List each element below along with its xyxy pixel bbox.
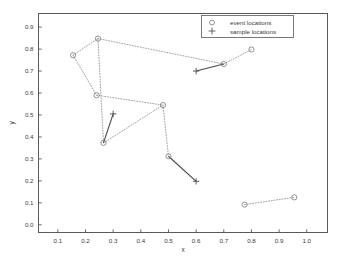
y-tick-label: 0.7 — [25, 67, 34, 74]
y-tick-label: 0.5 — [25, 111, 34, 118]
legend-label-sample-locations: sample locations — [230, 28, 276, 35]
y-tick-label: 0.2 — [25, 177, 34, 184]
x-tick-label: 0.1 — [54, 237, 63, 244]
y-tick-label: 0.9 — [25, 23, 34, 30]
x-tick-label: 0.5 — [164, 237, 173, 244]
x-tick-label: 0.9 — [275, 237, 284, 244]
y-tick-label: 0.3 — [25, 155, 34, 162]
figure-background — [0, 0, 346, 265]
x-tick-label: 0.8 — [247, 237, 256, 244]
x-tick-label: 0.4 — [137, 237, 146, 244]
plot-canvas: 0.10.20.30.40.50.60.70.80.91.0 0.00.10.2… — [0, 0, 346, 265]
y-tick-label: 0.8 — [25, 45, 34, 52]
legend-label-event-locations: event locations — [230, 19, 271, 26]
y-tick-label: 0.6 — [25, 89, 34, 96]
scatter-plot-figure: 0.10.20.30.40.50.60.70.80.91.0 0.00.10.2… — [0, 0, 346, 265]
y-tick-label: 0.0 — [25, 221, 34, 228]
x-tick-label: 0.3 — [109, 237, 118, 244]
y-tick-label: 0.1 — [25, 199, 34, 206]
x-tick-label: 0.6 — [192, 237, 201, 244]
legend: event locations sample locations — [202, 16, 294, 38]
x-tick-label: 1.0 — [302, 237, 311, 244]
x-tick-label: 0.2 — [81, 237, 90, 244]
x-tick-label: 0.7 — [219, 237, 228, 244]
y-tick-label: 0.4 — [25, 133, 34, 140]
